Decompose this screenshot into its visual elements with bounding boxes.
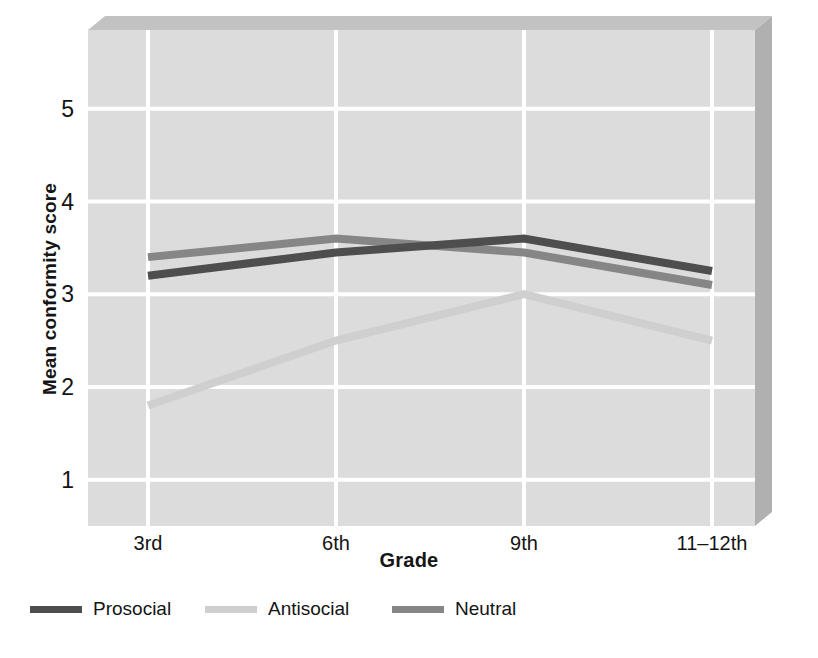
legend-item-neutral: Neutral [392,594,516,624]
legend-swatch-neutral [392,606,444,613]
line-chart-svg: 12345 3rd6th9th11–12th [0,0,818,590]
legend-label-antisocial: Antisocial [268,598,349,620]
plot-top-bevel [88,16,772,30]
chart-legend: Prosocial Antisocial Neutral [0,594,818,628]
legend-label-neutral: Neutral [455,598,516,620]
y-axis-title: Mean conformity score [39,139,61,439]
y-tick-label: 4 [61,189,74,215]
chart-plot-area: 12345 3rd6th9th11–12th Grade Mean confor… [0,0,818,590]
legend-swatch-prosocial [30,606,82,613]
legend-swatch-antisocial [205,606,257,613]
y-tick-labels: 12345 [61,96,74,493]
figure-container: 12345 3rd6th9th11–12th Grade Mean confor… [0,0,818,658]
y-tick-label: 1 [61,467,74,493]
y-tick-label: 3 [61,281,74,307]
legend-item-prosocial: Prosocial [30,594,171,624]
y-tick-label: 5 [61,96,74,122]
legend-label-prosocial: Prosocial [93,598,171,620]
y-tick-label: 2 [61,374,74,400]
plot-right-wall [755,16,772,526]
x-axis-title: Grade [0,549,818,572]
legend-item-antisocial: Antisocial [205,594,349,624]
